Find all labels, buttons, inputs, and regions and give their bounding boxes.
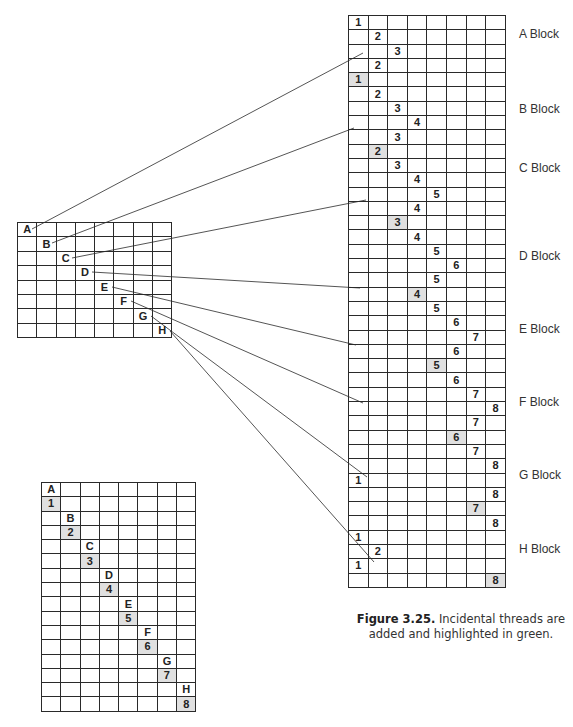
grid-cell: [407, 44, 427, 58]
grid-cell: [446, 530, 466, 544]
grid-cell: [446, 87, 466, 101]
grid-cell: [42, 597, 61, 611]
grid-cell: [80, 683, 99, 697]
grid-cell: [119, 497, 138, 511]
grid-cell: [349, 430, 369, 444]
grid-row: 2: [349, 544, 506, 558]
marked-cell: 6: [446, 373, 466, 387]
grid-cell: [42, 697, 61, 711]
grid-cell: [99, 554, 118, 568]
grid-cell: [486, 130, 506, 144]
grid-cell: [61, 554, 80, 568]
grid-cell: [466, 116, 486, 130]
grid-cell: [388, 530, 408, 544]
grid-cell: [114, 266, 133, 280]
grid-cell: [349, 187, 369, 201]
grid-cell: [446, 244, 466, 258]
grid-cell: [446, 44, 466, 58]
grid-cell: [466, 87, 486, 101]
grid-cell: [427, 344, 447, 358]
grid-cell: [119, 683, 138, 697]
grid-cell: [138, 483, 157, 497]
grid-cell: [486, 359, 506, 373]
grid-cell: [486, 244, 506, 258]
block-label: B Block: [519, 102, 560, 116]
marked-cell: A: [18, 223, 37, 237]
grid-cell: [388, 230, 408, 244]
grid-cell: [80, 497, 99, 511]
grid-cell: [368, 559, 388, 573]
grid-cell: [486, 230, 506, 244]
grid-cell: [427, 444, 447, 458]
grid-cell: [119, 568, 138, 582]
grid-cell: [368, 316, 388, 330]
grid-cell: [349, 201, 369, 215]
grid-cell: [407, 502, 427, 516]
grid-cell: [407, 301, 427, 315]
grid-cell: [446, 16, 466, 30]
grid-cell: [95, 223, 114, 237]
marked-cell: 2: [368, 544, 388, 558]
grid-cell: [42, 668, 61, 682]
grid-cell: [388, 244, 408, 258]
marked-cell: F: [138, 625, 157, 639]
grid-cell: [80, 483, 99, 497]
grid-cell: [368, 473, 388, 487]
draft-grid-threading: ABCDEFGH: [17, 222, 172, 338]
grid-row: 4: [349, 173, 506, 187]
grid-cell: [486, 116, 506, 130]
grid-cell: [157, 483, 176, 497]
grid-cell: [388, 316, 408, 330]
grid-cell: [157, 568, 176, 582]
grid-cell: [407, 158, 427, 172]
grid-cell: [157, 525, 176, 539]
grid-cell: [446, 359, 466, 373]
grid-cell: [18, 294, 37, 308]
grid-cell: [37, 266, 56, 280]
grid-cell: [466, 573, 486, 587]
grid-cell: [446, 58, 466, 72]
highlighted-cell: 7: [157, 668, 176, 682]
grid-cell: [177, 668, 196, 682]
grid-cell: [466, 130, 486, 144]
grid-cell: [119, 668, 138, 682]
grid-row: 4: [349, 230, 506, 244]
grid-cell: [95, 237, 114, 251]
grid-cell: [18, 309, 37, 323]
marked-cell: 7: [466, 330, 486, 344]
grid-cell: [486, 530, 506, 544]
grid-cell: [56, 223, 75, 237]
grid-cell: [446, 130, 466, 144]
grid-cell: [368, 287, 388, 301]
grid-cell: [427, 16, 447, 30]
grid-row: 1: [349, 559, 506, 573]
highlighted-cell: 4: [99, 583, 118, 597]
grid-cell: [349, 230, 369, 244]
grid-cell: [349, 44, 369, 58]
grid-cell: [427, 502, 447, 516]
grid-row: 5: [349, 301, 506, 315]
grid-row: 1: [349, 16, 506, 30]
grid-cell: [407, 473, 427, 487]
grid-cell: [388, 502, 408, 516]
grid-cell: [349, 387, 369, 401]
grid-cell: [157, 497, 176, 511]
grid-cell: [368, 216, 388, 230]
grid-cell: [349, 359, 369, 373]
grid-cell: [486, 16, 506, 30]
grid-cell: [138, 668, 157, 682]
grid-cell: [119, 583, 138, 597]
grid-cell: [446, 173, 466, 187]
grid-cell: [427, 130, 447, 144]
grid-cell: [61, 597, 80, 611]
grid-cell: [407, 416, 427, 430]
grid-cell: [56, 237, 75, 251]
marked-cell: 6: [446, 344, 466, 358]
grid-cell: [427, 216, 447, 230]
grid-cell: [99, 597, 118, 611]
grid-cell: [138, 568, 157, 582]
grid-row: 6: [349, 344, 506, 358]
grid-row: 1: [42, 497, 196, 511]
grid-cell: [368, 73, 388, 87]
grid-cell: [138, 597, 157, 611]
